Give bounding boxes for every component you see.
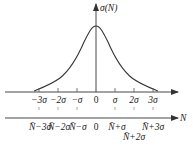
tick-label: −3σ bbox=[31, 95, 47, 105]
tick-label: −σ bbox=[71, 95, 82, 105]
lower-tick-labels: N̄−3σ N̄−2σ N̄−σ 0 N̄+σ N̄+2σ N̄+3σ bbox=[28, 122, 164, 142]
normal-distribution-diagram: σ(N) −3σ −2σ −σ 0 σ 2σ 3σ N N̄−3σ N̄−2σ … bbox=[0, 0, 193, 150]
tick-label: 2σ bbox=[129, 95, 139, 105]
tick-label: σ bbox=[113, 95, 118, 105]
tick-label: 0 bbox=[94, 122, 99, 132]
x-axis-label: N bbox=[179, 113, 187, 123]
tick-label: N̄−2σ bbox=[47, 122, 70, 132]
y-axis-label: σ(N) bbox=[100, 3, 117, 14]
tick-label: −2σ bbox=[50, 95, 66, 105]
tick-label: 3σ bbox=[147, 95, 158, 105]
connector-marks bbox=[39, 107, 153, 110]
tick-label: N̄+σ bbox=[107, 122, 126, 132]
tick-label: 0 bbox=[94, 95, 99, 105]
tick-label: N̄−σ bbox=[68, 122, 87, 132]
tick-label: N̄+2σ bbox=[122, 132, 145, 142]
upper-tick-labels: −3σ −2σ −σ 0 σ 2σ 3σ bbox=[31, 95, 158, 105]
tick-label: N̄+3σ bbox=[141, 122, 164, 132]
